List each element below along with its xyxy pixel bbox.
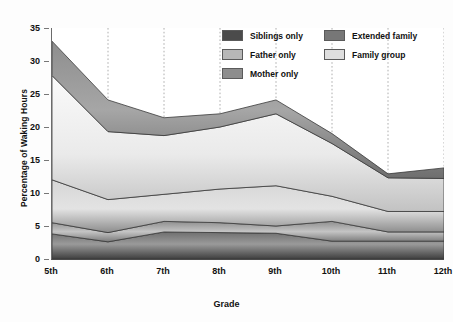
legend-label: Father only xyxy=(250,50,296,60)
y-tick-label: 20 xyxy=(14,122,40,132)
legend-column-right: Extended familyFamily group xyxy=(324,27,417,65)
legend-swatch-icon xyxy=(222,49,243,60)
y-tick-mark xyxy=(44,61,49,62)
area-chart: Percentage of Waking Hours 0510152025303… xyxy=(0,0,453,322)
y-tick-label: 15 xyxy=(14,155,40,165)
y-tick-mark xyxy=(44,226,49,227)
legend-swatch-icon xyxy=(222,68,243,79)
legend-item[interactable]: Mother only xyxy=(222,65,303,82)
x-tick-label: 12th xyxy=(420,266,453,276)
legend-swatch-icon xyxy=(324,30,345,41)
y-tick-mark xyxy=(44,127,49,128)
legend-swatch-icon xyxy=(324,49,345,60)
legend-column-left: Siblings onlyFather onlyMother only xyxy=(222,27,303,84)
y-tick-mark xyxy=(44,28,49,29)
y-tick-mark xyxy=(44,94,49,95)
legend-item[interactable]: Family group xyxy=(324,46,417,63)
y-tick-label: 25 xyxy=(14,89,40,99)
legend-item[interactable]: Extended family xyxy=(324,27,417,44)
y-tick-mark xyxy=(44,193,49,194)
y-tick-label: 30 xyxy=(14,56,40,66)
legend-item[interactable]: Siblings only xyxy=(222,27,303,44)
y-tick-mark xyxy=(44,160,49,161)
y-tick-label: 5 xyxy=(14,221,40,231)
y-axis-title: Percentage of Waking Hours xyxy=(19,58,29,238)
x-tick-label: 7th xyxy=(140,266,186,276)
x-tick-label: 6th xyxy=(84,266,130,276)
legend-label: Family group xyxy=(352,50,405,60)
y-tick-label: 0 xyxy=(14,254,40,264)
x-tick-label: 9th xyxy=(252,266,298,276)
x-tick-label: 8th xyxy=(196,266,242,276)
y-tick-label: 10 xyxy=(14,188,40,198)
legend-swatch-icon xyxy=(222,30,243,41)
legend-label: Mother only xyxy=(250,69,298,79)
legend-label: Extended family xyxy=(352,31,417,41)
x-axis-title: Grade xyxy=(0,299,453,309)
legend-label: Siblings only xyxy=(250,31,303,41)
legend-item[interactable]: Father only xyxy=(222,46,303,63)
chart-legend: Siblings onlyFather onlyMother only Exte… xyxy=(222,27,434,83)
x-tick-label: 11th xyxy=(364,266,410,276)
y-tick-mark xyxy=(44,259,49,260)
y-tick-label: 35 xyxy=(14,23,40,33)
x-tick-label: 5th xyxy=(28,266,74,276)
x-tick-label: 10th xyxy=(308,266,354,276)
